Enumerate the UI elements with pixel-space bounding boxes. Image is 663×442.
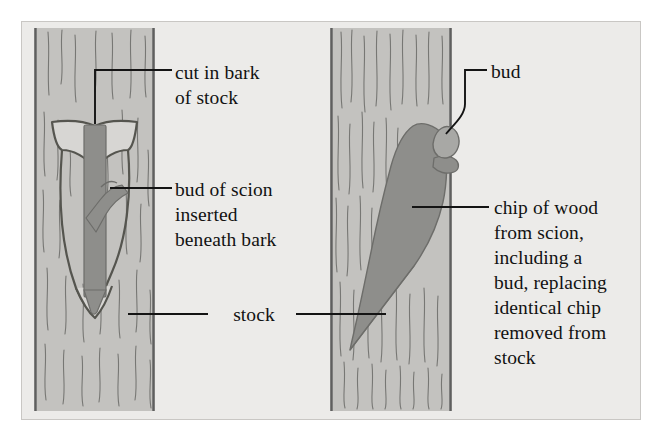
- leader-bud: [446, 70, 487, 134]
- grafting-diagram-figure: cut in bark of stock bud of scion insert…: [0, 0, 663, 442]
- label-bud: bud: [491, 59, 581, 84]
- label-stock: stock: [214, 302, 294, 327]
- label-bud-of-scion-inserted-beneath-bark: bud of scion inserted beneath bark: [175, 177, 365, 252]
- label-cut-in-bark-of-stock: cut in bark of stock: [175, 60, 355, 110]
- label-chip-of-wood-from-scion: chip of wood from scion, including a bud…: [494, 195, 659, 370]
